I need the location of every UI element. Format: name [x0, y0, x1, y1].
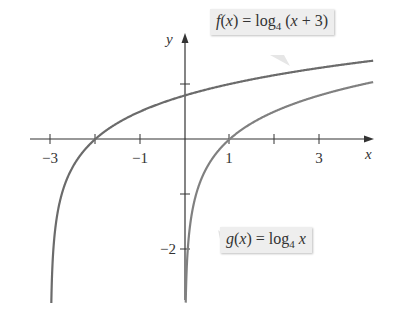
- y-axis-label: y: [164, 31, 173, 47]
- g-curve: [186, 82, 373, 303]
- y-axis-arrow-icon: [182, 33, 189, 43]
- f-function-callout: f(x) = log4 (x + 3): [210, 9, 334, 35]
- f-curve: [51, 61, 373, 303]
- callout-arg: (: [281, 12, 290, 29]
- callout-arg-rest: + 3): [298, 12, 328, 29]
- f-callout-pointer: [270, 55, 290, 66]
- y-tick-label: −2: [160, 241, 176, 257]
- callout-eq: ) = log: [246, 230, 289, 247]
- log-function-graph: −3 −1 1 3 −2 x y: [0, 0, 398, 328]
- x-axis-arrow-icon: [364, 136, 374, 143]
- callout-fn-name: g: [226, 230, 234, 247]
- x-tick-label: 1: [225, 150, 233, 166]
- g-function-callout: g(x) = log4 x: [220, 227, 312, 253]
- callout-arg-var: x: [291, 12, 298, 29]
- x-tick-label: −1: [132, 150, 148, 166]
- callout-var: x: [226, 12, 233, 29]
- x-axis-label: x: [364, 146, 372, 162]
- callout-eq: ) = log: [233, 12, 276, 29]
- callout-arg-var: x: [295, 230, 306, 247]
- x-tick-label: 3: [315, 150, 323, 166]
- x-tick-label: −3: [42, 150, 58, 166]
